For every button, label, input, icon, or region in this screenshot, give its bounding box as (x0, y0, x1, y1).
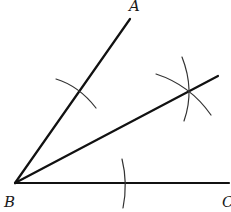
label-b: B (3, 193, 15, 211)
arc-on-ba (56, 79, 96, 108)
ray-bisector (15, 76, 218, 183)
ray-ba (15, 19, 130, 183)
angle-bisector-diagram: A B C (0, 0, 231, 212)
label-c: C (222, 193, 231, 211)
label-a: A (127, 0, 140, 15)
